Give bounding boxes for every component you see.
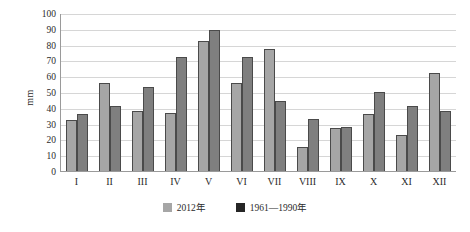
plot-area <box>60 14 456 172</box>
y-axis-tick-10: 10 <box>47 152 57 161</box>
bar-V-series-2[interactable] <box>209 30 220 171</box>
bar-XI-series-2[interactable] <box>407 106 418 171</box>
bar-group-XII <box>423 14 456 171</box>
bar-IX-series-2[interactable] <box>341 127 352 171</box>
y-axis-tick-60: 60 <box>47 73 57 82</box>
y-axis-tick-100: 100 <box>42 10 56 19</box>
bar-group-IV <box>160 14 193 171</box>
legend-swatch-icon-series-2 <box>236 203 245 212</box>
bar-group-II <box>94 14 127 171</box>
bar-group-V <box>193 14 226 171</box>
bar-group-I <box>61 14 94 171</box>
bar-IV-series-2[interactable] <box>176 57 187 171</box>
bar-XII-series-1[interactable] <box>429 73 440 171</box>
bar-I-series-1[interactable] <box>66 120 77 171</box>
bar-group-VII <box>259 14 292 171</box>
y-axis-tick-20: 20 <box>47 136 57 145</box>
bar-X-series-2[interactable] <box>374 92 385 171</box>
bar-VII-series-2[interactable] <box>275 101 286 171</box>
y-axis-tick-90: 90 <box>47 25 57 34</box>
bar-XII-series-2[interactable] <box>440 111 451 171</box>
x-axis-tick-II: II <box>93 176 126 187</box>
x-axis-tick-III: III <box>126 176 159 187</box>
x-axis-tick-IX: IX <box>324 176 357 187</box>
bar-VII-series-1[interactable] <box>264 49 275 171</box>
bar-X-series-1[interactable] <box>363 114 374 171</box>
bar-IV-series-1[interactable] <box>165 113 176 171</box>
bar-II-series-2[interactable] <box>110 106 121 171</box>
bar-IX-series-1[interactable] <box>330 128 341 171</box>
bar-III-series-1[interactable] <box>132 111 143 171</box>
bar-group-IX <box>324 14 357 171</box>
legend-label-series-2: 1961—1990年 <box>250 200 308 214</box>
bar-II-series-1[interactable] <box>99 83 110 171</box>
x-axis-tick-VI: VI <box>225 176 258 187</box>
legend-label-series-1: 2012年 <box>177 200 206 214</box>
y-axis-tick-labels: 0102030405060708090100 <box>30 14 56 172</box>
bar-VIII-series-2[interactable] <box>308 119 319 171</box>
bar-group-X <box>357 14 390 171</box>
x-axis-tick-IV: IV <box>159 176 192 187</box>
x-axis-tick-labels: IIIIIIIVVVIVIIVIIIIXXXIXII <box>60 176 456 187</box>
x-axis-tick-VIII: VIII <box>291 176 324 187</box>
bar-group-XI <box>390 14 423 171</box>
legend-item-series-2[interactable]: 1961—1990年 <box>236 200 308 214</box>
y-axis-tick-50: 50 <box>47 89 57 98</box>
y-axis-tick-30: 30 <box>47 120 57 129</box>
legend-swatch-icon-series-1 <box>163 203 172 212</box>
bar-VIII-series-1[interactable] <box>297 147 308 171</box>
bar-I-series-2[interactable] <box>77 114 88 171</box>
x-axis-tick-XII: XII <box>423 176 456 187</box>
x-axis-tick-XI: XI <box>390 176 423 187</box>
x-axis-tick-VII: VII <box>258 176 291 187</box>
x-axis-tick-X: X <box>357 176 390 187</box>
bar-group-VIII <box>291 14 324 171</box>
precipitation-bar-chart: mm 0102030405060708090100 IIIIIIIVVVIVII… <box>0 0 470 232</box>
y-axis-tick-40: 40 <box>47 104 57 113</box>
bar-XI-series-1[interactable] <box>396 135 407 171</box>
x-axis-tick-V: V <box>192 176 225 187</box>
y-axis-tick-70: 70 <box>47 57 57 66</box>
chart-legend: 2012年 1961—1990年 <box>0 200 470 214</box>
bar-group-VI <box>226 14 259 171</box>
x-axis-tick-I: I <box>60 176 93 187</box>
legend-item-series-1[interactable]: 2012年 <box>163 200 206 214</box>
y-axis-tick-0: 0 <box>51 168 56 177</box>
y-axis-tick-80: 80 <box>47 41 57 50</box>
bar-group-III <box>127 14 160 171</box>
bar-V-series-1[interactable] <box>198 41 209 171</box>
bar-VI-series-2[interactable] <box>242 57 253 171</box>
bar-groups <box>61 14 456 171</box>
bar-VI-series-1[interactable] <box>231 83 242 171</box>
bar-III-series-2[interactable] <box>143 87 154 171</box>
